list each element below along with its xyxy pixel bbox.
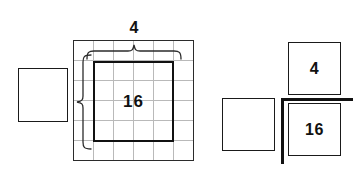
top-curly-brace-icon [86,44,182,60]
worksheet-canvas: 16 4 4 16 [0,0,353,174]
left-empty-answer-box[interactable] [18,68,68,122]
left-curly-brace-icon [75,54,92,150]
right-top-box-quotient[interactable]: 4 [288,42,341,95]
division-bracket-horizontal-icon [281,98,353,101]
right-middle-empty-box-divisor[interactable] [222,98,275,151]
right-bottom-box-dividend[interactable]: 16 [288,103,341,156]
division-bracket-vertical-icon [281,98,284,164]
inner-square-value: 16 [93,61,174,142]
top-brace-label: 4 [116,17,152,39]
